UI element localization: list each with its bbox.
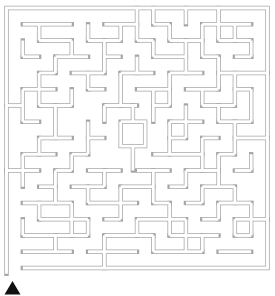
entrance-arrow-icon (5, 281, 21, 295)
maze-puzzle-page (0, 0, 275, 296)
maze-svg (0, 0, 275, 296)
